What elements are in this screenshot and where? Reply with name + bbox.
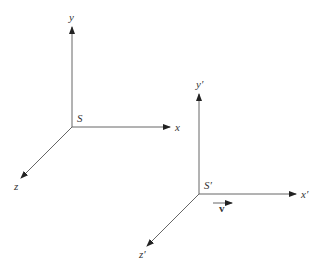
sp-origin-label: S′ [204,179,213,191]
frame-s: y x z S [13,11,180,192]
s-z-label: z [13,180,19,192]
s-y-label: y [68,11,74,23]
sp-z-label: z′ [138,248,146,260]
frames-diagram: y x z S y′ x′ z′ S′ v [0,0,319,270]
frame-s-prime: y′ x′ z′ S′ v [138,78,309,260]
s-z-axis [21,127,72,178]
s-x-label: x [174,121,180,133]
sp-y-label: y′ [195,78,204,90]
sp-x-label: x′ [300,188,309,200]
velocity-label: v [219,202,225,214]
s-origin-label: S [77,112,83,124]
sp-z-axis [147,194,199,246]
